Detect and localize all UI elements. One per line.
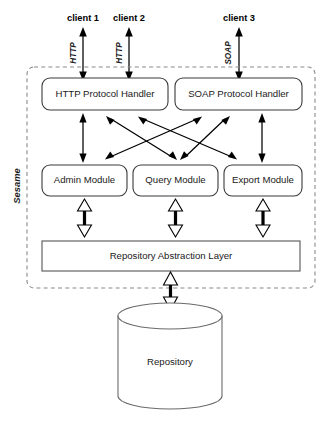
client-3-protocol-label: SOAP: [224, 41, 233, 65]
http-protocol-handler-box: HTTP Protocol Handler: [42, 78, 168, 110]
client-3-label: client 3: [223, 13, 255, 23]
http-protocol-handler-label: HTTP Protocol Handler: [56, 88, 156, 99]
export-module-box: Export Module: [224, 165, 302, 196]
admin-module-label: Admin Module: [54, 174, 115, 185]
export-module-label: Export Module: [232, 174, 294, 185]
architecture-diagram: client 1 client 2 client 3 HTTP HTTP SOA…: [0, 0, 331, 424]
repository-label: Repository: [147, 356, 193, 367]
admin-module-box: Admin Module: [42, 165, 127, 196]
client-1-label: client 1: [67, 13, 99, 23]
repository-cylinder: Repository: [118, 303, 222, 409]
client-1-protocol-label: HTTP: [69, 42, 78, 64]
soap-protocol-handler-label: SOAP Protocol Handler: [188, 88, 289, 99]
client-2-protocol-label: HTTP: [115, 42, 124, 64]
query-module-box: Query Module: [133, 165, 218, 196]
repository-abstraction-layer-label: Repository Abstraction Layer: [110, 250, 233, 261]
query-module-label: Query Module: [145, 174, 205, 185]
client-2-label: client 2: [113, 13, 145, 23]
soap-protocol-handler-box: SOAP Protocol Handler: [175, 78, 302, 110]
repository-abstraction-layer-box: Repository Abstraction Layer: [42, 241, 300, 271]
sesame-boundary-label: Sesame: [11, 168, 22, 203]
diagram-canvas: client 1 client 2 client 3 HTTP HTTP SOA…: [0, 0, 331, 424]
